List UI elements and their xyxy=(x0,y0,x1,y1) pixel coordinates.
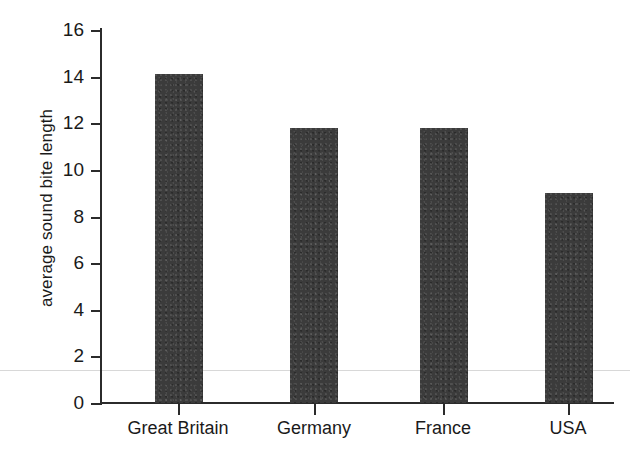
x-tick-mark xyxy=(178,404,180,415)
y-tick-label: 4 xyxy=(73,299,84,321)
y-tick-label: 10 xyxy=(63,159,84,181)
x-tick-mark xyxy=(568,404,570,415)
y-tick-mark xyxy=(91,356,100,358)
x-tick-label: France xyxy=(415,418,471,439)
y-tick-mark xyxy=(91,217,100,219)
y-tick-label: 2 xyxy=(73,345,84,367)
bar xyxy=(290,128,338,403)
bar xyxy=(545,193,593,403)
y-tick-mark xyxy=(91,123,100,125)
y-tick-mark xyxy=(91,263,100,265)
y-tick-mark xyxy=(91,310,100,312)
y-tick-mark xyxy=(91,30,100,32)
bar-chart-figure: average sound bite length 0246810121416 … xyxy=(0,0,630,451)
y-tick-label: 0 xyxy=(73,392,84,414)
x-tick-label: USA xyxy=(549,418,586,439)
y-axis-line xyxy=(100,28,102,405)
bar xyxy=(420,128,468,403)
y-tick-label: 14 xyxy=(63,66,84,88)
y-axis-title: average sound bite length xyxy=(37,43,57,373)
y-tick-label: 12 xyxy=(63,112,84,134)
x-tick-label: Great Britain xyxy=(127,418,228,439)
y-tick-label: 8 xyxy=(73,206,84,228)
y-tick-mark xyxy=(91,170,100,172)
y-tick-mark xyxy=(91,403,100,405)
x-tick-mark xyxy=(314,404,316,415)
x-tick-mark xyxy=(443,404,445,415)
y-tick-label: 16 xyxy=(63,19,84,41)
y-tick-label: 6 xyxy=(73,252,84,274)
y-tick-mark xyxy=(91,77,100,79)
x-tick-label: Germany xyxy=(277,418,351,439)
bar xyxy=(155,74,203,403)
